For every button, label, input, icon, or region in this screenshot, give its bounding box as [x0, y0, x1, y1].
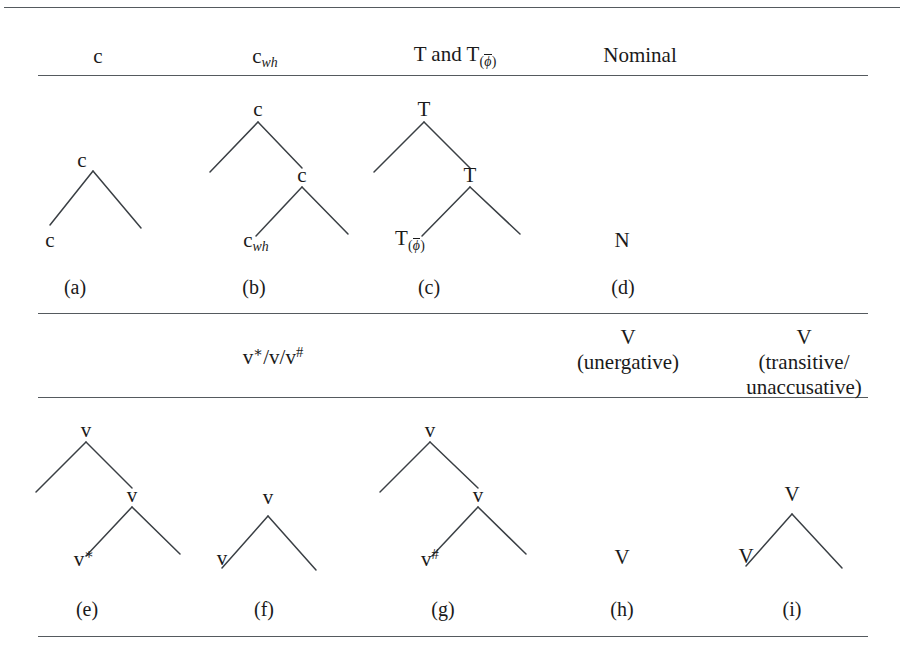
caption-f-text: (f) [254, 598, 274, 620]
tree-g-inner-text: v [473, 483, 484, 507]
tree-e-branches [18, 430, 193, 565]
header-v-hash-superscript: # [296, 344, 303, 360]
branch-upper-right [424, 122, 470, 168]
tree-e-root-label: v [72, 418, 100, 443]
tree-b-root-label: c [244, 97, 272, 122]
phi-overline: ϕ [484, 54, 492, 69]
tree-a-leaf-text: c [45, 228, 54, 252]
tree-f-leaf-text: v [217, 546, 228, 570]
branch-left [50, 171, 93, 225]
tree-e-root-text: v [81, 418, 92, 442]
tree-g-leaf-label: v# [406, 546, 454, 571]
branch-upper-left [380, 442, 430, 492]
tree-g-root-text: v [425, 418, 436, 442]
tree-f-root-text: v [263, 485, 274, 509]
tree-c-branches [352, 110, 532, 245]
header-v-unergative-gloss: (unergative) [548, 350, 708, 375]
tree-c-inner-label: T [456, 163, 484, 188]
tree-g-root-label: v [416, 418, 444, 443]
tree-c-leaf-text: T [395, 226, 408, 250]
tree-e-leaf-label: v∗ [62, 546, 106, 571]
tree-g-branches [362, 430, 542, 565]
tree-f-root-label: v [254, 485, 282, 510]
tree-c-inner-text: T [464, 163, 477, 187]
tree-d-leaf-label: N [608, 228, 636, 253]
tree-g-leaf-text: v [421, 547, 432, 571]
branch-lower-right [302, 187, 348, 234]
caption-i-text: (i) [783, 598, 802, 620]
header-v-unergative: V (unergative) [548, 325, 708, 375]
tree-b-leaf-text: c [243, 228, 252, 252]
caption-b-text: (b) [242, 276, 265, 298]
tree-i-root-text: V [784, 482, 799, 506]
header-v-base: v [243, 345, 254, 369]
header-t-subscript: (ϕ) [479, 54, 496, 69]
header-v-star-superscript: ∗ [253, 344, 263, 360]
bottom-rule [38, 636, 868, 637]
header-v-variants: v∗/v/v# [208, 344, 338, 369]
tree-c-leaf-label: T(ϕ) [372, 226, 448, 254]
tree-d-leaf-text: N [614, 228, 629, 252]
header-t-and-t-base: T and T [414, 42, 480, 66]
header-t-and-t-phi: T and T(ϕ) [340, 42, 570, 70]
tree-a-branches [38, 155, 168, 235]
caption-g: (g) [418, 598, 468, 622]
branch-upper-left [374, 122, 424, 172]
tree-b-leaf-subscript: wh [253, 239, 269, 254]
header-rule-1 [38, 75, 868, 76]
branch-right [93, 171, 141, 228]
header-v-transitive-node: V [716, 325, 892, 350]
header-c-label: c [93, 44, 102, 68]
tree-e-inner-label: v [118, 483, 146, 508]
header-nominal-label: Nominal [603, 43, 677, 67]
branch-upper-right [258, 122, 302, 168]
caption-c-text: (c) [418, 276, 440, 298]
caption-d-text: (d) [611, 276, 634, 298]
tree-b-leaf-label: cwh [228, 228, 284, 256]
header-v-unergative-node: V [548, 325, 708, 350]
tree-i-leaf-text: V [738, 544, 753, 568]
caption-h: (h) [597, 598, 647, 622]
tree-h-leaf-text: V [614, 545, 629, 569]
paren-close: ) [420, 238, 425, 253]
caption-h-text: (h) [610, 598, 633, 620]
syntax-category-figure: c cwh T and T(ϕ) Nominal c c c c [0, 0, 904, 663]
branch-lower-right [470, 187, 520, 234]
tree-a-root-label: c [68, 148, 96, 173]
tree-b-inner-label: c [288, 163, 316, 188]
branch-right [268, 516, 316, 570]
branch-upper-right [430, 442, 478, 488]
header-v-transitive: V (transitive/ unaccusative) [716, 325, 892, 399]
branch-upper-left [210, 122, 258, 172]
tree-i-root-label: V [778, 482, 806, 507]
caption-e: (e) [62, 598, 112, 622]
tree-a-root-text: c [77, 148, 86, 172]
caption-d: (d) [598, 276, 648, 300]
header-c-wh-base: c [252, 44, 261, 68]
tree-c [352, 110, 532, 245]
caption-b: (b) [229, 276, 279, 300]
header-v-transitive-gloss-line2: unaccusative) [716, 375, 892, 400]
header-nominal: Nominal [545, 43, 735, 68]
header-c-wh: cwh [220, 44, 310, 72]
tree-i-leaf-label: V [732, 544, 760, 569]
tree-g-inner-label: v [464, 483, 492, 508]
header-v-transitive-gloss-line1: (transitive/ [716, 350, 892, 375]
header-c: c [58, 44, 138, 69]
header-v-middle: /v/v [263, 345, 296, 369]
tree-a [38, 155, 168, 235]
tree-b-root-text: c [253, 97, 262, 121]
paren-close: ) [492, 54, 497, 69]
branch-right [792, 514, 842, 568]
tree-a-leaf-label: c [36, 228, 64, 253]
branch-lower-right [132, 507, 180, 554]
branch-upper-left [36, 442, 86, 492]
tree-g-leaf-superscript: # [432, 546, 439, 562]
caption-a: (a) [50, 276, 100, 300]
tree-b [190, 110, 360, 245]
caption-g-text: (g) [431, 598, 454, 620]
tree-h-leaf-label: V [608, 545, 636, 570]
branch-lower-right [478, 507, 526, 554]
branch-upper-right [86, 442, 132, 488]
tree-b-inner-text: c [297, 163, 306, 187]
